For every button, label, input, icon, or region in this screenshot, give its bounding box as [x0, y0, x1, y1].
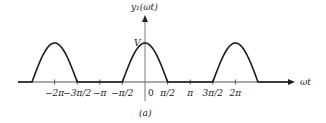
peak-label: V [134, 38, 142, 48]
figure-caption: (a) [139, 108, 152, 118]
half-wave-rectified-cosine-figure: ωt y₁(ωt) −2π−3π/2−π−π/2π/2π3π/22π V 0 (… [0, 0, 326, 123]
x-tick-label: −π [93, 88, 108, 98]
origin-label: 0 [148, 88, 154, 98]
y-axis-label: y₁(ωt) [130, 2, 158, 12]
x-axis-label: ωt [300, 77, 311, 87]
x-tick-label: −2π [45, 88, 65, 98]
x-tick-label: 2π [229, 88, 243, 98]
rectified-cosine-curve [18, 43, 290, 82]
x-tick-label: −π/2 [111, 88, 133, 98]
x-tick-label: π/2 [159, 88, 175, 98]
x-tick-label: π [186, 88, 194, 98]
x-tick-label: −3π/2 [63, 88, 91, 98]
y-axis-arrow-icon [142, 15, 148, 22]
x-tick-label: 3π/2 [203, 88, 224, 98]
